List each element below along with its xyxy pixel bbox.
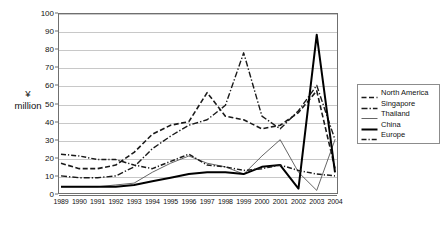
legend-item[interactable]: Thailand	[361, 109, 436, 119]
x-tick-label: 1998	[218, 198, 233, 205]
legend-label: Thailand	[381, 109, 410, 118]
legend-label: China	[381, 120, 401, 129]
x-tick-label: 2003	[309, 198, 324, 205]
x-tick-label: 1997	[200, 198, 215, 205]
legend-label: Singapore	[381, 99, 415, 108]
x-tick-label: 2001	[273, 198, 288, 205]
y-tick-label: 10	[45, 171, 54, 180]
x-tick-label: 1989	[54, 198, 69, 205]
x-tick-label: 1991	[90, 198, 105, 205]
legend-swatch-icon	[361, 109, 378, 118]
y-tick-label: 80	[45, 45, 54, 54]
x-tick-label: 1999	[236, 198, 251, 205]
chart-root: ¥ million 0102030405060708090100 1989199…	[0, 0, 444, 228]
legend-item[interactable]: Singapore	[361, 99, 436, 109]
legend-swatch-icon	[361, 120, 378, 129]
x-tick-label: 1993	[127, 198, 142, 205]
legend-item[interactable]: Europe	[361, 130, 436, 140]
y-axis-ticks: 0102030405060708090100	[0, 0, 58, 228]
series-svg	[58, 13, 338, 194]
legend-swatch-icon	[361, 99, 378, 108]
y-tick-label: 20	[45, 153, 54, 162]
x-axis-ticks: 1989199019911992199319941995199619971998…	[0, 196, 444, 218]
y-tick-label: 90	[45, 27, 54, 36]
legend-swatch-icon	[361, 130, 378, 139]
series-line	[61, 35, 335, 189]
x-tick-label: 1992	[108, 198, 123, 205]
chart-legend: North AmericaSingaporeThailandChinaEurop…	[357, 84, 440, 144]
x-tick-label: 1990	[72, 198, 87, 205]
y-tick-label: 100	[41, 9, 54, 18]
series-lines	[58, 13, 338, 194]
legend-item[interactable]: North America	[361, 88, 436, 98]
y-tick-label: 50	[45, 99, 54, 108]
y-tick-label: 70	[45, 63, 54, 72]
x-tick-label: 1995	[163, 198, 178, 205]
x-tick-label: 1994	[145, 198, 160, 205]
series-line	[61, 91, 335, 169]
legend-item[interactable]: China	[361, 120, 436, 130]
x-tick-label: 1996	[182, 198, 197, 205]
y-tick-label: 30	[45, 135, 54, 144]
y-tick-label: 40	[45, 117, 54, 126]
y-tick-label: 60	[45, 81, 54, 90]
legend-label: North America	[381, 88, 429, 97]
x-tick-label: 2002	[291, 198, 306, 205]
x-tick-label: 2000	[255, 198, 270, 205]
legend-label: Europe	[381, 130, 405, 139]
legend-swatch-icon	[361, 88, 378, 97]
x-tick-label: 2004	[328, 198, 343, 205]
